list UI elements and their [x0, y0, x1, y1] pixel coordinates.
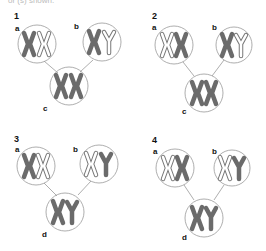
panel-2-number: 2	[152, 11, 157, 21]
panel-1-cell-c-label: c	[43, 104, 47, 113]
panel-3-cell-a-label: a	[15, 145, 19, 154]
panel-2-cell-a-label: a	[152, 23, 156, 32]
panel-4-number: 4	[152, 135, 157, 145]
panel-3-cell-d-label: d	[42, 230, 47, 239]
panel-2-cell-c-label: c	[182, 107, 186, 116]
panel-4-cell-b-label: b	[212, 147, 217, 156]
panel-3-cell-b-label: b	[73, 145, 78, 154]
panel-2-cell-b-label: b	[212, 23, 217, 32]
panel-4-cell-a-label: a	[153, 147, 157, 156]
panel-1-cell-a-label: a	[15, 24, 19, 33]
chromosome-diagram	[0, 0, 266, 251]
panel-3-number: 3	[14, 134, 19, 144]
panel-4-cell-d-label: d	[182, 233, 187, 242]
panel-1-cell-b-label: b	[74, 22, 79, 31]
panel-1-number: 1	[14, 11, 19, 21]
